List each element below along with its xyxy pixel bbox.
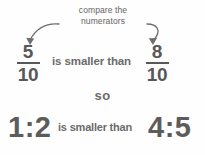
ratio-comparison-row: 1:2 is smaller than 4:5 bbox=[0, 112, 205, 148]
fraction-ratio-comparison-figure: compare the numerators 5 10 is smaller t… bbox=[0, 0, 205, 155]
fraction-relation-text: is smaller than bbox=[52, 55, 131, 67]
right-fraction: 8 10 bbox=[136, 42, 178, 84]
right-fraction-denominator: 10 bbox=[136, 65, 178, 84]
right-ratio: 4:5 bbox=[148, 112, 191, 142]
fraction-comparison-row: 5 10 is smaller than 8 10 bbox=[0, 42, 205, 84]
curved-arrow-to-left-numerator-path bbox=[30, 24, 59, 40]
annotation-caption-line-1: compare the bbox=[57, 5, 149, 16]
right-fraction-numerator: 8 bbox=[136, 42, 178, 61]
left-fraction-denominator: 10 bbox=[7, 65, 49, 84]
connector-word-so: so bbox=[0, 88, 205, 103]
ratio-relation-text: is smaller than bbox=[58, 121, 132, 133]
left-ratio: 1:2 bbox=[8, 112, 51, 142]
annotation-caption-line-2: numerators bbox=[57, 16, 149, 27]
annotation-caption: compare the numerators bbox=[57, 5, 149, 26]
left-fraction: 5 10 bbox=[7, 42, 49, 84]
left-fraction-numerator: 5 bbox=[7, 42, 49, 61]
curved-arrow-to-right-numerator-path bbox=[147, 24, 158, 40]
